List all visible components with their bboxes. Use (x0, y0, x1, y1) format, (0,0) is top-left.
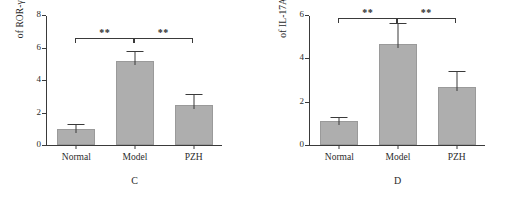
significance-stars: ** (158, 28, 169, 37)
x-axis-label-model: Model (386, 152, 411, 163)
y-tick-label: 4 (300, 52, 305, 63)
bar-model (116, 61, 154, 146)
bracket-tick-left (134, 38, 135, 43)
error-bar-model (397, 24, 398, 49)
bar-slot-normal: Normal (47, 16, 106, 145)
y-tick-mark (42, 113, 46, 114)
x-tick-mark (76, 145, 77, 149)
bracket-tick-right (455, 18, 456, 23)
x-tick-mark (456, 145, 457, 149)
error-cap-normal (331, 117, 348, 118)
bar-pzh (175, 105, 213, 145)
error-cap-pzh (185, 94, 202, 95)
x-tick-mark (339, 145, 340, 149)
y-axis-title-d: Relative expression of IL-17A (271, 0, 295, 42)
bracket-tick-left (75, 38, 76, 43)
bar-pzh (438, 87, 476, 146)
y-tick-mark (42, 80, 46, 81)
significance-stars: ** (421, 8, 432, 17)
y-axis-title-line2: of IL-17A (278, 0, 289, 38)
x-tick-mark (134, 145, 135, 149)
bracket-line (338, 18, 397, 19)
y-tick-0: 0 (46, 145, 47, 146)
y-tick-label: 6 (37, 42, 42, 53)
panel-d: Relative expression of IL-17A 0246 Norma… (263, 0, 526, 203)
significance-stars: ** (99, 28, 110, 37)
error-cap-model (126, 51, 143, 52)
bar-group-d: NormalModelPZH (310, 16, 485, 145)
y-tick-label: 6 (300, 9, 305, 20)
y-tick-mark (42, 145, 46, 146)
y-tick-mark (305, 145, 309, 146)
error-bar-normal (339, 118, 340, 125)
bracket-line (75, 38, 134, 39)
bar-model (379, 44, 417, 145)
x-axis-label-model: Model (123, 152, 148, 163)
error-bar-model (134, 52, 135, 65)
bracket-tick-right (192, 38, 193, 43)
bar-slot-pzh: PZH (164, 16, 223, 145)
y-tick-mark (305, 15, 309, 16)
y-tick-0: 0 (309, 145, 310, 146)
y-axis-title-c: Relative expression of ROR-γt (8, 0, 32, 42)
bracket-line (397, 18, 456, 19)
y-tick-mark (42, 48, 46, 49)
y-tick-label: 0 (300, 139, 305, 150)
bar-group-c: NormalModelPZH (47, 16, 222, 145)
bar-slot-pzh: PZH (427, 16, 486, 145)
y-tick-label: 2 (300, 96, 305, 107)
y-tick-label: 0 (37, 139, 42, 150)
y-tick-label: 8 (37, 9, 42, 20)
error-cap-normal (68, 124, 85, 125)
panel-letter-d: D (263, 175, 526, 186)
bar-slot-model: Model (106, 16, 165, 145)
error-bar-pzh (193, 95, 194, 109)
bar-slot-model: Model (369, 16, 428, 145)
bar-slot-normal: Normal (310, 16, 369, 145)
panel-c: Relative expression of ROR-γt 02468 Norm… (0, 0, 263, 203)
y-tick-mark (305, 102, 309, 103)
error-bar-pzh (456, 72, 457, 90)
x-axis-label-pzh: PZH (185, 152, 203, 163)
significance-stars: ** (362, 8, 373, 17)
figure-panels-c-d: Relative expression of ROR-γt 02468 Norm… (0, 0, 526, 203)
bracket-tick-left (338, 18, 339, 23)
plot-area-d: 0246 NormalModelPZH **** (309, 16, 485, 146)
y-tick-mark (305, 58, 309, 59)
y-tick-label: 2 (37, 107, 42, 118)
plot-area-c: 02468 NormalModelPZH **** (46, 16, 222, 146)
error-cap-pzh (448, 71, 465, 72)
y-tick-label: 4 (37, 74, 42, 85)
x-tick-mark (193, 145, 194, 149)
error-bar-normal (76, 125, 77, 133)
bracket-tick-left (397, 18, 398, 23)
y-tick-mark (42, 15, 46, 16)
y-axis-title-line2: of ROR-γt (15, 0, 26, 38)
x-axis-label-normal: Normal (62, 152, 91, 163)
bracket-line (134, 38, 193, 39)
x-axis-label-pzh: PZH (448, 152, 466, 163)
panel-letter-c: C (0, 175, 263, 186)
x-axis-label-normal: Normal (325, 152, 354, 163)
x-tick-mark (397, 145, 398, 149)
